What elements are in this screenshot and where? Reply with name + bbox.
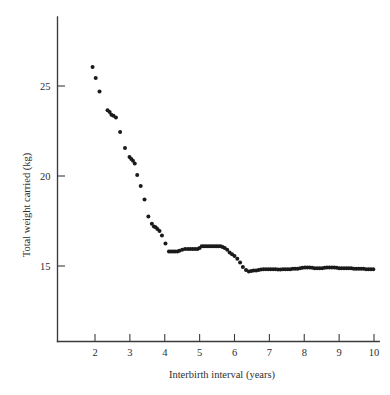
data-point xyxy=(146,215,150,219)
data-point xyxy=(139,184,143,188)
data-point xyxy=(118,130,122,134)
x-tick-label: 4 xyxy=(162,347,168,358)
data-point xyxy=(123,146,127,150)
axes xyxy=(58,17,380,342)
y-tick-label: 25 xyxy=(40,81,51,92)
data-point xyxy=(135,173,139,177)
data-point xyxy=(94,76,98,80)
y-tick-label: 15 xyxy=(40,261,51,272)
data-points xyxy=(91,65,376,273)
data-point xyxy=(235,257,239,261)
data-point xyxy=(158,229,162,233)
data-point xyxy=(160,233,164,237)
data-point xyxy=(371,267,375,271)
x-tick-label: 3 xyxy=(127,347,132,358)
data-point xyxy=(163,242,167,246)
x-tick-label: 10 xyxy=(369,347,380,358)
x-tick-label: 6 xyxy=(232,347,237,358)
data-point xyxy=(114,116,118,120)
x-tick-label: 8 xyxy=(302,347,307,358)
data-point xyxy=(91,65,95,69)
data-point xyxy=(241,265,245,269)
data-point xyxy=(143,197,147,201)
x-tick-label: 9 xyxy=(337,347,342,358)
x-axis-title: Interbirth interval (years) xyxy=(169,369,276,381)
plot-canvas: 152025 2345678910 Interbirth interval (y… xyxy=(0,0,390,395)
x-tick-label: 7 xyxy=(267,347,272,358)
scatter-plot-figure: 152025 2345678910 Interbirth interval (y… xyxy=(0,0,390,395)
data-point xyxy=(238,260,242,264)
y-axis-ticks: 152025 xyxy=(40,81,65,272)
data-point xyxy=(133,161,137,165)
x-tick-label: 2 xyxy=(92,347,97,358)
y-axis-title: Total weight carried (kg) xyxy=(21,152,33,257)
y-tick-label: 20 xyxy=(40,171,51,182)
x-axis-ticks: 2345678910 xyxy=(92,334,379,358)
x-tick-label: 5 xyxy=(197,347,202,358)
data-point xyxy=(98,89,102,93)
